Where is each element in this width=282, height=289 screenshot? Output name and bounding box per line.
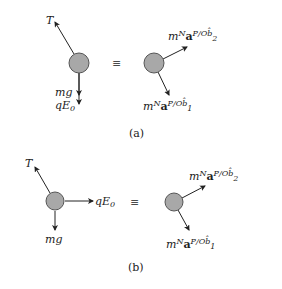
ball — [144, 53, 164, 73]
inertia-b1-label: mNaP/Ob̂1 — [166, 235, 215, 251]
equivalence-symbol: ≡ — [130, 196, 139, 209]
ball — [46, 192, 64, 210]
inertia-b1-label: mNaP/Ob̂1 — [143, 97, 192, 113]
caption-b: (b) — [128, 261, 144, 274]
tension-arrow — [35, 167, 50, 193]
tension-label: T — [25, 157, 34, 170]
equivalence-symbol: ≡ — [112, 57, 121, 70]
inertia-b2-arrow — [163, 47, 187, 59]
panel-b-right-body: mNaP/Ob̂2 mNaP/Ob̂1 — [165, 167, 238, 251]
electric-force-label: qE0 — [55, 99, 75, 113]
panel-a: T mg qE0 ≡ mNaP/Ob̂2 mNaP/Ob̂1 (a) — [46, 14, 217, 140]
panel-b: T qE0 mg ≡ mNaP/Ob̂2 mNaP/Ob̂1 (b) — [25, 157, 238, 274]
gravity-label: mg — [55, 86, 72, 99]
caption-a: (a) — [129, 127, 144, 140]
gravity-label: mg — [45, 233, 62, 246]
panel-a-left-body: T mg qE0 — [46, 14, 89, 113]
inertia-b1-arrow — [158, 72, 169, 95]
inertia-b2-label: mNaP/Ob̂2 — [189, 167, 238, 183]
free-body-diagram: T mg qE0 ≡ mNaP/Ob̂2 mNaP/Ob̂1 (a) T qE0… — [0, 0, 282, 289]
inertia-b2-arrow — [182, 186, 205, 198]
panel-a-right-body: mNaP/Ob̂2 mNaP/Ob̂1 — [143, 27, 217, 113]
electric-force-label: qE0 — [95, 195, 115, 209]
inertia-b1-arrow — [178, 210, 189, 230]
tension-arrow — [55, 22, 74, 54]
ball — [165, 193, 183, 211]
ball — [69, 53, 89, 73]
inertia-b2-label: mNaP/Ob̂2 — [168, 27, 217, 43]
tension-label: T — [46, 14, 55, 27]
panel-b-left-body: T qE0 mg — [25, 157, 115, 246]
